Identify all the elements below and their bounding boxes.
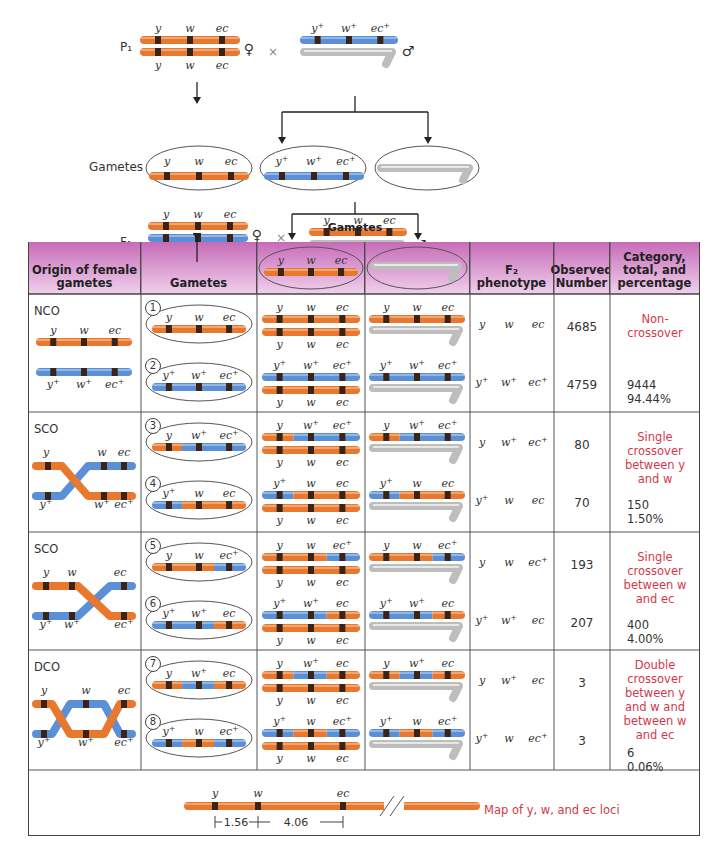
gamete-index-badge: 7 [145, 656, 161, 672]
locus-band [277, 553, 283, 561]
locus-band [308, 386, 314, 394]
f2-phenotype: yw+ec [478, 673, 544, 687]
f2-male-y-chromosome [373, 505, 459, 518]
locus-label: y+ [475, 493, 489, 507]
locus-band [383, 373, 389, 381]
category-label: Non-crossover [620, 312, 690, 340]
observed-number: 70 [552, 496, 612, 510]
locus-label: ec+ [528, 435, 547, 449]
gamete-index-badge: 1 [145, 300, 161, 316]
locus-band [277, 315, 283, 323]
locus-label: ec [336, 477, 349, 490]
locus-label: y [165, 667, 173, 680]
locus-band [308, 433, 314, 441]
locus-band [277, 386, 283, 394]
locus-band [166, 501, 172, 509]
f2-male-y-chromosome [373, 387, 459, 400]
category-percent: 0.06% [627, 760, 664, 774]
locus-band [383, 433, 389, 441]
locus-band [308, 315, 314, 323]
locus-label: ec [336, 338, 349, 351]
locus-band [212, 802, 218, 810]
locus-label: w+ [409, 656, 425, 670]
f2-female-chromosome-paternal [262, 328, 360, 336]
locus-band [445, 729, 451, 737]
locus-label: y [276, 301, 284, 314]
locus-label: ec+ [528, 555, 547, 569]
f2-male-x-chromosome [369, 491, 465, 499]
origin-chromosome-wild [36, 368, 132, 376]
locus-label: ec+ [438, 358, 457, 372]
locus-band [339, 504, 345, 512]
locus-label: y [49, 324, 57, 337]
female-gamete-chromosome [152, 325, 246, 333]
arrow-head [414, 233, 422, 240]
map-caption: Map of y, w, and ec loci [484, 803, 620, 817]
locus-band [81, 368, 87, 376]
locus-label: w+ [409, 358, 425, 372]
locus-label: y [276, 419, 284, 432]
locus-band [196, 443, 202, 451]
locus-label: ec [336, 694, 349, 707]
locus-label: y+ [379, 358, 393, 372]
locus-band [166, 739, 172, 747]
locus-label: y+ [161, 368, 175, 382]
locus-band [445, 315, 451, 323]
locus-label: y [276, 539, 284, 552]
locus-label: ec+ [528, 375, 547, 389]
category-total: 400 [627, 618, 649, 632]
locus-band [414, 553, 420, 561]
locus-band [226, 325, 232, 333]
locus-label: ec [335, 254, 348, 267]
locus-label: ec [336, 396, 349, 409]
gamete-index-badge: 2 [145, 358, 161, 374]
locus-label: ec+ [219, 724, 238, 738]
locus-band [414, 611, 420, 619]
f2-female-chromosome-paternal [262, 504, 360, 512]
locus-band [339, 491, 345, 499]
origin-chromosome-illustration: ywecy+w+ec+ [36, 684, 134, 749]
locus-band [255, 802, 261, 810]
locus-label: w [412, 301, 422, 314]
locus-label: y [276, 456, 284, 469]
f2-phenotype: y+wec+ [475, 731, 548, 745]
crossover-type-label: SCO [34, 542, 58, 556]
locus-label: ec [441, 477, 454, 490]
locus-label: y [42, 446, 50, 459]
f2-male-x-chromosome [369, 671, 465, 679]
f2-male-y-chromosome [373, 329, 459, 342]
locus-band [414, 315, 420, 323]
locus-label: w [194, 487, 204, 500]
locus-band [339, 611, 345, 619]
locus-label: ec [336, 597, 349, 610]
locus-label: w [306, 576, 316, 589]
f2-male-x-chromosome [369, 729, 465, 737]
observed-number: 207 [552, 616, 612, 630]
locus-band [50, 338, 56, 346]
crossover-type-label: SCO [34, 422, 58, 436]
locus-label: y+ [37, 735, 51, 749]
locus-band [445, 553, 451, 561]
locus-band [414, 433, 420, 441]
locus-label: y+ [475, 375, 489, 389]
gamete-index-badge: 5 [145, 538, 161, 554]
locus-label: w [81, 684, 91, 697]
locus-label: ec+ [219, 548, 238, 562]
locus-label: w+ [501, 375, 517, 389]
locus-label: ec+ [438, 418, 457, 432]
locus-label: y [478, 318, 486, 331]
gamete-index-badge: 3 [145, 418, 161, 434]
f2-male-x-chromosome [369, 553, 465, 561]
locus-band [277, 611, 283, 619]
locus-label: ec [336, 634, 349, 647]
f2-female-chromosome-paternal [262, 386, 360, 394]
locus-label: y [478, 556, 486, 569]
locus-label: ec [336, 301, 349, 314]
locus-label: y+ [161, 724, 175, 738]
f2-female-chromosome-maternal [262, 315, 360, 323]
locus-band [383, 491, 389, 499]
locus-label: y+ [272, 714, 286, 728]
locus-label: w [504, 318, 514, 331]
observed-number: 3 [552, 734, 612, 748]
locus-band [308, 729, 314, 737]
